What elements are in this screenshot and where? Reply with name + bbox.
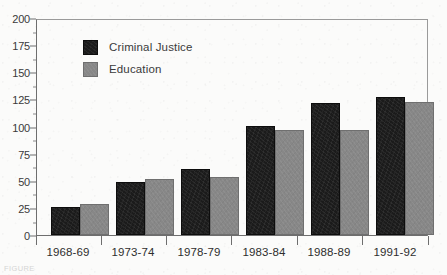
y-axis-label-100: 100 — [0, 122, 30, 134]
x-axis-tick-5 — [362, 236, 363, 245]
x-axis-label-1983-84: 1983-84 — [243, 246, 286, 258]
x-axis-tick-6 — [428, 236, 429, 245]
bar-education-1988-89 — [340, 130, 369, 235]
bar-criminal-justice-1988-89 — [311, 103, 340, 235]
chart-legend: Criminal Justice Education — [83, 36, 193, 80]
x-axis-label-1988-89: 1988-89 — [308, 246, 351, 258]
y-axis-label-125: 125 — [0, 94, 30, 106]
bar-criminal-justice-1973-74 — [116, 182, 145, 235]
x-axis-label-1973-74: 1973-74 — [112, 246, 155, 258]
x-axis-label-1991-92: 1991-92 — [374, 246, 417, 258]
y-axis-label-0: 0 — [0, 230, 30, 242]
legend-swatch-criminal-justice — [83, 40, 98, 55]
bar-criminal-justice-1968-69 — [51, 207, 80, 235]
y-axis-label-200: 200 — [0, 13, 30, 25]
bar-criminal-justice-1978-79 — [181, 169, 210, 235]
bar-education-1991-92 — [405, 102, 434, 235]
x-axis-tick-2 — [166, 236, 167, 245]
x-axis-tick-1 — [101, 236, 102, 245]
legend-label-criminal-justice: Criminal Justice — [109, 41, 193, 53]
x-axis-label-1968-69: 1968-69 — [47, 246, 90, 258]
y-axis-label-75: 75 — [0, 149, 30, 161]
bar-education-1983-84 — [275, 130, 304, 235]
caption-remnant: FIGURE — [4, 264, 35, 273]
x-axis-label-1978-79: 1978-79 — [178, 246, 221, 258]
y-axis-label-150: 150 — [0, 67, 30, 79]
x-axis-tick-3 — [231, 236, 232, 245]
x-axis-tick-0 — [36, 236, 37, 245]
bar-criminal-justice-1991-92 — [376, 97, 405, 235]
x-axis-tick-4 — [297, 236, 298, 245]
legend-swatch-education — [83, 62, 98, 77]
legend-item-criminal-justice: Criminal Justice — [83, 36, 193, 58]
bar-education-1968-69 — [80, 204, 109, 235]
y-axis-label-25: 25 — [0, 203, 30, 215]
y-axis-label-50: 50 — [0, 176, 30, 188]
bar-education-1978-79 — [210, 177, 239, 235]
bar-education-1973-74 — [145, 179, 174, 235]
grouped-bar-chart: 200 175 150 125 100 75 50 25 0 — [0, 0, 447, 275]
legend-item-education: Education — [83, 58, 193, 80]
y-axis-label-175: 175 — [0, 40, 30, 52]
legend-label-education: Education — [109, 63, 162, 75]
bar-criminal-justice-1983-84 — [246, 126, 275, 235]
